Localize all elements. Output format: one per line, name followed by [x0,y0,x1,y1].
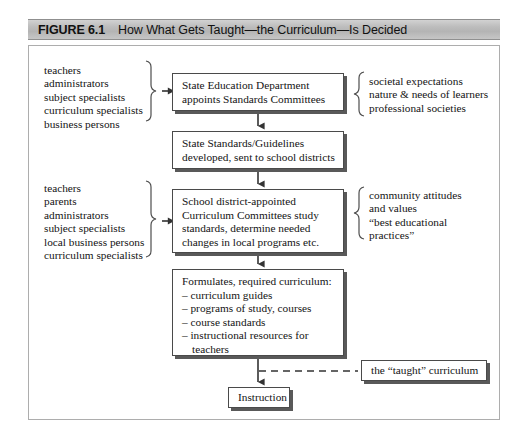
label-line: administrators [44,209,144,222]
flow-box-list-item: – course standards [182,316,335,330]
label-line: practices” [369,229,462,242]
flow-box-state-education-department: State Education Department appoints Stan… [172,73,344,111]
flow-box-line: State Education Department [182,79,335,93]
label-group-left-stakeholders-state: teachers administrators subject speciali… [44,64,143,131]
flow-box-instruction: Instruction [228,387,290,408]
label-line: subject specialists [44,91,143,104]
label-line: community attitudes [369,189,462,202]
flow-box-line: Curriculum Committees study [182,209,335,223]
label-line: nature & needs of learners [369,88,488,101]
flow-box-line: Instruction [238,391,281,405]
flow-box-line: School district-appointed [182,195,335,209]
flow-box-curriculum-committees: School district-appointed Curriculum Com… [172,189,344,253]
figure-caption-bar: FIGURE 6.1 How What Gets Taught—the Curr… [28,19,500,40]
flow-box-list-item-continuation: teachers [182,343,335,357]
flow-box-heading: Formulates, required curriculum: [182,275,335,289]
label-line: parents [44,195,144,208]
label-line: administrators [44,77,143,90]
label-line: curriculum specialists [44,249,144,262]
label-line: local business persons [44,236,144,249]
figure-title: How What Gets Taught—the Curriculum—Is D… [118,23,407,37]
flow-box-list-item: – programs of study, courses [182,302,335,316]
label-line: societal expectations [369,75,488,88]
flow-box-line: State Standards/Guidelines [182,137,335,151]
label-line: subject specialists [44,222,144,235]
label-line: business persons [44,118,143,131]
label-line: and values [369,202,462,215]
label-line: “best educational [369,216,462,229]
flow-box-taught-curriculum: the “taught” curriculum [361,360,487,381]
figure-number-label: FIGURE 6.1 [38,23,105,37]
label-line: teachers [44,182,144,195]
label-group-right-influences-district: community attitudes and values “best edu… [369,189,462,243]
label-line: professional societies [369,102,488,115]
flow-box-line: the “taught” curriculum [371,364,478,378]
flow-box-list-item: – curriculum guides [182,289,335,303]
flow-box-line: changes in local programs etc. [182,236,335,250]
label-line: curriculum specialists [44,104,143,117]
flow-box-line: appoints Standards Committees [182,93,335,107]
flow-box-line: standards, determine needed [182,222,335,236]
flow-box-list-item: – instructional resources for [182,329,335,343]
label-line: teachers [44,64,143,77]
flow-box-formulates-required-curriculum: Formulates, required curriculum: – curri… [172,269,344,356]
flow-box-line: developed, sent to school districts [182,151,335,165]
label-group-right-influences-state: societal expectations nature & needs of … [369,75,488,115]
label-group-left-stakeholders-district: teachers parents administrators subject … [44,182,144,262]
flow-box-state-standards-guidelines: State Standards/Guidelines developed, se… [172,131,344,169]
figure-container: FIGURE 6.1 How What Gets Taught—the Curr… [0,0,529,444]
